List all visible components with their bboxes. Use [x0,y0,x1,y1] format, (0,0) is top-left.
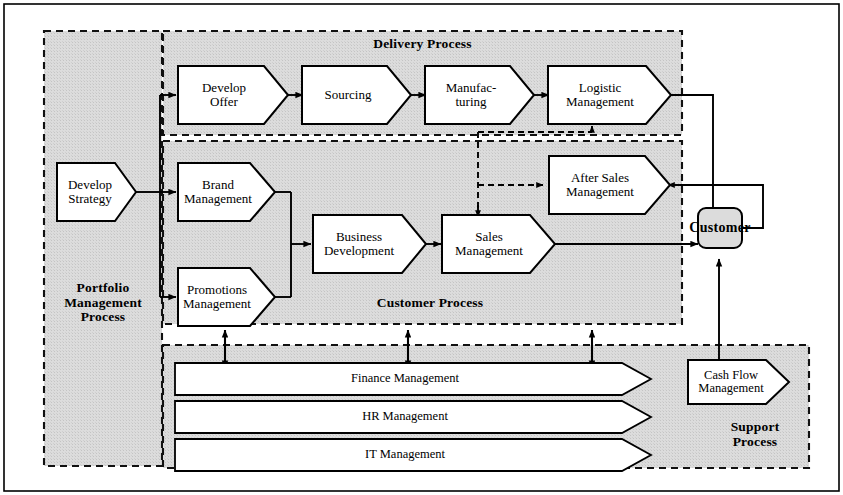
node-develop-offer [178,66,288,124]
node-it-management [175,439,651,471]
node-hr-management [175,401,651,433]
group-portfolio-management-process [44,31,162,466]
node-cash-flow-management [688,360,789,404]
node-sourcing [302,66,411,124]
node-customer [698,208,742,248]
node-after-sales-management [549,156,670,214]
node-business-development [313,215,426,273]
node-sales-management [442,215,555,273]
node-finance-management [175,363,651,395]
node-logistic-management [548,66,671,124]
diagram-canvas: Portfolio Management Process Delivery Pr… [0,0,843,495]
node-manufacturing [425,66,534,124]
diagram-svg [0,0,843,495]
